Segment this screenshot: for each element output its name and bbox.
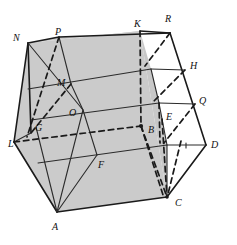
vertex-label-O: O xyxy=(69,108,76,118)
vertex-label-Q: Q xyxy=(199,96,206,106)
vertex-label-N: N xyxy=(13,33,20,43)
vertex-label-P: P xyxy=(55,27,61,37)
vertex-label-A: A xyxy=(52,222,58,232)
vertex-label-C: C xyxy=(175,198,182,208)
vertex-label-G: G xyxy=(35,123,42,133)
vertex-label-B: B xyxy=(148,125,154,135)
hidden-K-vertical xyxy=(140,31,141,126)
point-B-marker xyxy=(139,124,143,128)
vertex-label-L: L xyxy=(8,139,14,149)
vertex-label-M: M xyxy=(57,78,65,88)
vertex-label-R: R xyxy=(165,14,171,24)
vertex-label-F: F xyxy=(98,160,104,170)
point-C-marker xyxy=(165,195,169,199)
vertex-label-E: E xyxy=(166,112,172,122)
vertex-label-K: K xyxy=(134,19,141,29)
vertex-label-H: H xyxy=(190,61,197,71)
geometry-figure: N P K R H M Q O E G B L D F C A xyxy=(0,0,237,245)
vertex-label-D: D xyxy=(211,140,218,150)
